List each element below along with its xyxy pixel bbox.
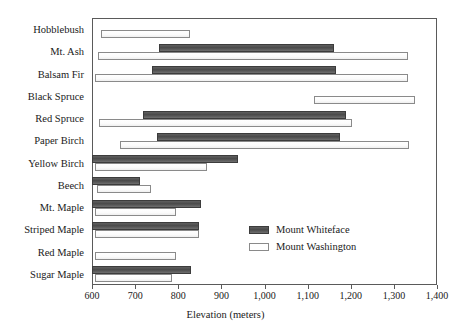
category-label: Yellow Birch [0,157,88,168]
category-label: Sugar Maple [0,268,88,279]
elevation-range-chart: HobblebushMt. AshBalsam FirBlack SpruceR… [0,0,451,333]
legend-item: Mount Washington [249,239,399,254]
x-tick-mark [308,285,309,289]
x-axis-title: Elevation (meters) [0,309,451,320]
category-label: Mt. Ash [0,46,88,57]
x-tick-label: 1,300 [383,290,406,301]
x-tick-mark [135,285,136,289]
x-tick-label: 800 [171,290,186,301]
x-tick-mark [351,285,352,289]
x-tick-mark [437,285,438,289]
legend-swatch-light [249,243,269,251]
x-tick-label: 600 [85,290,100,301]
x-tick-mark [221,285,222,289]
category-label: Red Maple [0,246,88,257]
x-tick-label: 1,400 [426,290,449,301]
x-tick-label: 1,100 [296,290,319,301]
x-tick-label: 700 [128,290,143,301]
category-label: Hobblebush [0,24,88,35]
x-tick-mark [265,285,266,289]
legend-swatch-dark [249,226,269,234]
chart-legend: Mount WhitefaceMount Washington [249,222,399,256]
legend-item: Mount Whiteface [249,222,399,237]
y-axis-category-labels: HobblebushMt. AshBalsam FirBlack SpruceR… [0,18,88,285]
legend-label: Mount Whiteface [276,224,350,235]
category-label: Black Spruce [0,90,88,101]
category-label: Red Spruce [0,113,88,124]
x-tick-mark [92,285,93,289]
x-tick-mark [394,285,395,289]
category-label: Mt. Maple [0,202,88,213]
x-tick-label: 1,000 [253,290,276,301]
category-label: Balsam Fir [0,68,88,79]
x-tick-mark [178,285,179,289]
x-axis-ticks: 6007008009001,0001,1001,2001,3001,400 [92,285,437,291]
category-label: Striped Maple [0,224,88,235]
x-tick-label: 1,200 [340,290,363,301]
category-label: Beech [0,179,88,190]
legend-label: Mount Washington [276,241,356,252]
category-label: Paper Birch [0,135,88,146]
x-tick-label: 900 [214,290,229,301]
